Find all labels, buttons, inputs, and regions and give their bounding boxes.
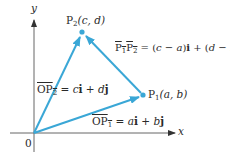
op2-u2: j <box>105 83 109 95</box>
vector-diagram: y x 0 P2(c, d) P1(a, b) P1P2 = (c − a)i … <box>0 0 230 162</box>
op1-name: OP <box>92 115 108 127</box>
p2-coords: (c, d) <box>78 14 105 26</box>
op1-eq: = <box>112 115 127 127</box>
op1-u2: j <box>160 115 164 127</box>
op2-name: OP <box>37 83 53 95</box>
p1-coords: (a, b) <box>160 88 188 100</box>
p1-label: P1(a, b) <box>148 89 187 102</box>
point-p1 <box>140 92 145 97</box>
y-axis-label: y <box>31 3 37 14</box>
op2-vector-label: OP2 = ci + dj <box>37 84 109 97</box>
origin-label: 0 <box>25 138 32 149</box>
point-p2 <box>79 29 84 34</box>
op2-plus: + <box>83 83 98 95</box>
x-axis-label: x <box>178 126 184 137</box>
op2-eq: = <box>57 83 72 95</box>
op1-plus: + <box>138 115 153 127</box>
op2-c2: d <box>98 83 105 95</box>
diagram-graphics <box>0 0 230 162</box>
p2-label: P2(c, d) <box>66 15 105 28</box>
p1p2-vector-label: P1P2 = (c − a)i + (d − b)j <box>115 43 230 55</box>
op1-vector-label: OP1 = ai + bj <box>92 116 164 129</box>
